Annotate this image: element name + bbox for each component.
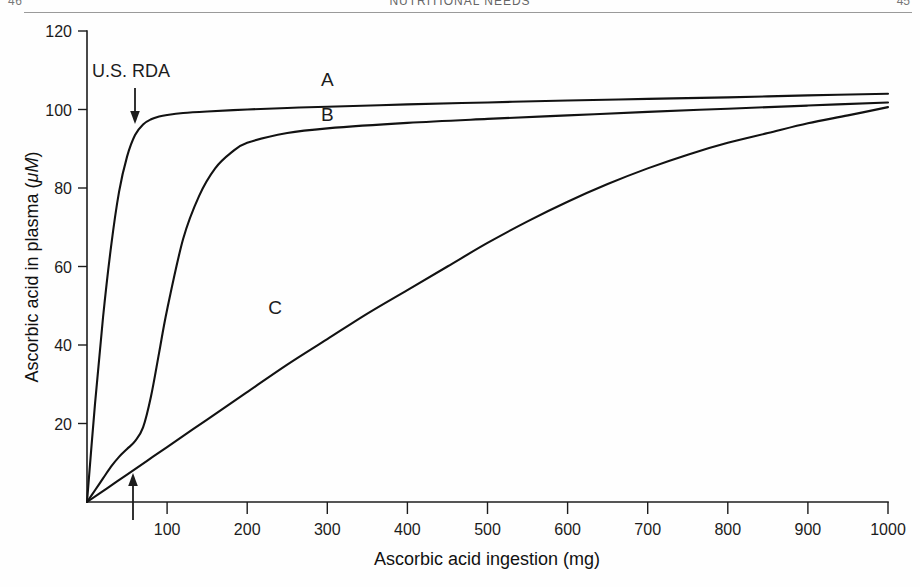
x-axis-ticks: 1002003004005006007008009001000	[154, 502, 906, 538]
curve-b	[87, 102, 888, 502]
rda-up-arrow-icon	[128, 473, 138, 520]
curve-a	[87, 94, 888, 502]
running-head-right-folio: 45	[897, 0, 910, 8]
running-head: 46 NUTRITIONAL NEEDS 45	[0, 0, 920, 8]
x-tick-label-200: 200	[234, 521, 261, 538]
y-tick-label-20: 20	[54, 416, 72, 433]
y-axis-title-text: Ascorbic acid in plasma	[22, 192, 42, 382]
x-tick-label-700: 700	[634, 521, 661, 538]
x-tick-label-300: 300	[314, 521, 341, 538]
x-tick-label-800: 800	[714, 521, 741, 538]
svg-text:Ascorbic acid in plasma (μM): Ascorbic acid in plasma (μM)	[22, 152, 42, 383]
ascorbic-acid-plot: 20406080100120 1002003004005006007008009…	[0, 14, 920, 587]
y-tick-label-60: 60	[54, 259, 72, 276]
x-axis-title: Ascorbic acid ingestion (mg)	[374, 549, 600, 569]
curve-label-c: C	[268, 297, 282, 318]
y-axis-title-unit: μM	[22, 158, 42, 184]
x-tick-label-600: 600	[554, 521, 581, 538]
x-axis: 1002003004005006007008009001000	[87, 502, 906, 538]
rda-annotation: U.S. RDA	[92, 61, 170, 520]
x-tick-label-400: 400	[394, 521, 421, 538]
header-rule	[24, 12, 912, 13]
y-tick-label-80: 80	[54, 180, 72, 197]
y-tick-label-120: 120	[45, 23, 72, 40]
running-head-title: NUTRITIONAL NEEDS	[0, 0, 920, 8]
curve-label-a: A	[321, 69, 334, 90]
rda-label: U.S. RDA	[92, 61, 170, 81]
x-tick-label-900: 900	[795, 521, 822, 538]
curve-label-b: B	[321, 104, 334, 125]
curve-c	[87, 107, 888, 502]
x-tick-label-100: 100	[154, 521, 181, 538]
y-axis: 20406080100120	[45, 23, 87, 502]
rda-down-arrow-icon	[130, 88, 140, 124]
y-tick-label-40: 40	[54, 337, 72, 354]
figure-page: 46 NUTRITIONAL NEEDS 45 20406080100120 1…	[0, 0, 920, 587]
x-tick-label-1000: 1000	[870, 521, 906, 538]
data-curves	[87, 94, 888, 502]
curve-labels: ABC	[268, 69, 334, 318]
y-axis-title: Ascorbic acid in plasma (μM)	[22, 152, 42, 383]
y-tick-label-100: 100	[45, 102, 72, 119]
chart-figure: 20406080100120 1002003004005006007008009…	[0, 14, 920, 587]
x-tick-label-500: 500	[474, 521, 501, 538]
y-axis-ticks: 20406080100120	[45, 23, 87, 433]
